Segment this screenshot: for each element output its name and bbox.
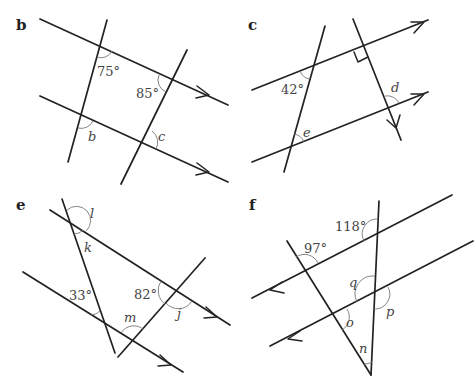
angle-n: n: [359, 341, 367, 356]
angle-l: l: [90, 206, 94, 221]
angle-p: p: [386, 304, 395, 319]
angle-arc-q: [355, 276, 375, 302]
angle-arc-l: [67, 206, 91, 231]
parallel-line-bottom: [252, 92, 428, 162]
panel-c: c 42° d e: [248, 16, 428, 172]
transversal-left: [62, 199, 115, 353]
parallel-line-top: [50, 210, 230, 325]
panel-label-b: b: [16, 16, 27, 34]
panel-e: e l k 33° 82° m j: [16, 196, 230, 372]
panel-label-f: f: [249, 196, 257, 214]
angle-o: o: [346, 315, 354, 330]
panel-b: b 75° 85° b c: [16, 16, 228, 184]
angle-b: b: [88, 129, 96, 144]
angle-d: d: [391, 80, 399, 95]
parallel-line-bottom: [23, 272, 183, 372]
angle-arc-c: [152, 131, 158, 149]
angle-82: 82°: [134, 287, 157, 302]
transversal-left: [284, 26, 325, 172]
angle-arc-42: [300, 71, 309, 79]
parallel-line-top: [40, 19, 228, 105]
transversal-right: [121, 50, 187, 184]
angle-75: 75°: [97, 64, 120, 79]
parallel-lines-diagram: b 75° 85° b c c 42° d e e: [0, 0, 475, 383]
angle-42: 42°: [281, 82, 304, 97]
angle-arc-85: [158, 75, 166, 92]
angle-k: k: [84, 240, 92, 255]
angle-85: 85°: [136, 86, 159, 101]
transversal-right: [118, 258, 205, 357]
angle-97: 97°: [304, 241, 327, 256]
angle-arc-82: [158, 281, 165, 304]
angle-m: m: [124, 310, 136, 325]
angle-arc-b: [78, 121, 93, 128]
panel-f: f 118° 97° q p o n: [249, 195, 473, 375]
parallel-line-top: [252, 20, 428, 90]
parallel-line-lower: [270, 241, 473, 346]
angle-arc-d: [385, 96, 399, 103]
transversal-right: [371, 201, 379, 375]
angle-q: q: [349, 275, 357, 290]
panel-label-c: c: [248, 16, 257, 34]
angle-118: 118°: [335, 219, 366, 234]
angle-c: c: [158, 129, 166, 144]
panel-label-e: e: [16, 196, 26, 214]
angle-e: e: [303, 125, 311, 140]
parallel-line-bottom: [40, 96, 228, 182]
angle-arc-75: [97, 51, 112, 58]
angle-33: 33°: [69, 288, 92, 303]
